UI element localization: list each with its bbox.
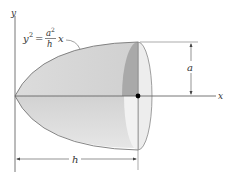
svg-text:2: 2 (51, 26, 55, 33)
equation-leader-line (66, 40, 80, 49)
paraboloid-bottom-surface (15, 96, 138, 148)
a-arrow-bottom (190, 91, 193, 95)
a-arrow-top (190, 43, 193, 47)
svg-text:2: 2 (29, 31, 33, 39)
center-point (136, 94, 141, 99)
h-arrow-right (133, 158, 137, 161)
paraboloid-diagram: y x a h y 2 = a 2 h x (0, 0, 236, 179)
svg-text:y: y (22, 33, 29, 44)
equation-label: y 2 = a 2 h x (22, 26, 64, 49)
svg-text:h: h (47, 39, 52, 49)
svg-text:x: x (58, 33, 64, 44)
length-label: h (72, 154, 78, 165)
x-axis-label: x (218, 91, 223, 101)
radius-label: a (187, 62, 193, 73)
h-arrow-left (16, 158, 20, 161)
y-axis-label: y (10, 8, 17, 18)
svg-text:=: = (35, 33, 43, 44)
